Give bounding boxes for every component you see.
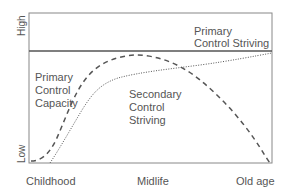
scs-label-line2: Control — [129, 101, 164, 113]
pcc-label-line3: Capacity — [35, 97, 78, 109]
scs-label-line3: Striving — [129, 114, 166, 126]
x-label-oldage: Old age — [236, 175, 275, 187]
x-label-childhood: Childhood — [26, 175, 76, 187]
lifespan-control-chart: High Low Childhood Midlife Old age Prima… — [0, 0, 286, 193]
x-label-midlife: Midlife — [137, 175, 169, 187]
y-label-low: Low — [16, 145, 27, 163]
pcs-label-line2: Control Striving — [194, 37, 269, 49]
pcc-label-line2: Control — [35, 84, 70, 96]
scs-label-line1: Secondary — [129, 88, 182, 100]
pcs-label-line1: Primary — [194, 25, 232, 37]
y-label-high: High — [16, 15, 27, 36]
pcc-label-line1: Primary — [35, 71, 73, 83]
